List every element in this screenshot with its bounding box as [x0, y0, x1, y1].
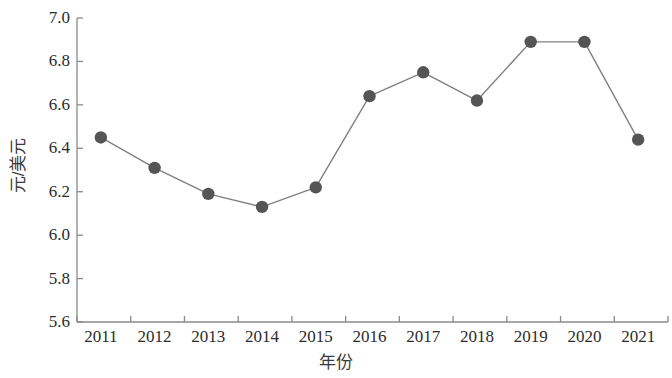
data-point-marker	[95, 131, 107, 143]
line-path	[101, 42, 638, 207]
data-point-marker	[578, 36, 590, 48]
data-point-marker	[471, 94, 483, 106]
data-point-marker	[202, 188, 214, 200]
data-point-marker	[417, 66, 429, 78]
series-line	[101, 42, 638, 207]
data-point-marker	[256, 201, 268, 213]
x-axis-ticks	[77, 316, 668, 322]
axis-lines	[77, 18, 668, 322]
data-point-marker	[148, 162, 160, 174]
series-markers	[95, 36, 645, 213]
data-point-marker	[524, 36, 536, 48]
chart-figure: 元/美元 5.65.86.06.26.46.66.87.0 2011201220…	[0, 0, 672, 378]
data-point-marker	[632, 133, 644, 145]
y-axis-ticks	[77, 18, 83, 322]
data-point-marker	[310, 181, 322, 193]
plot-area	[0, 0, 672, 378]
data-point-marker	[363, 90, 375, 102]
